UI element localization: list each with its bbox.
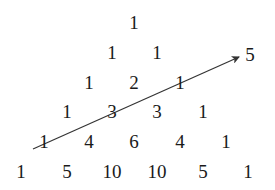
triangle-entry: 1 xyxy=(62,102,72,121)
triangle-entry: 1 xyxy=(221,132,231,151)
triangle-entry: 5 xyxy=(198,162,208,181)
triangle-entry: 1 xyxy=(152,43,162,62)
triangle-entry: 1 xyxy=(198,102,208,121)
triangle-entry: 1 xyxy=(84,73,94,92)
triangle-entry: 1 xyxy=(16,162,26,181)
arrow-sum-label: 5 xyxy=(245,45,255,64)
triangle-entry: 6 xyxy=(129,132,139,151)
triangle-entry: 1 xyxy=(129,13,139,32)
triangle-entry: 3 xyxy=(107,102,117,121)
triangle-entry: 1 xyxy=(39,132,49,151)
triangle-entry: 1 xyxy=(175,73,185,92)
triangle-entry: 3 xyxy=(152,102,162,121)
triangle-entry: 1 xyxy=(107,43,117,62)
triangle-entry: 1 xyxy=(243,162,253,181)
triangle-entry: 10 xyxy=(103,162,122,181)
triangle-entry: 4 xyxy=(175,132,185,151)
triangle-entry: 5 xyxy=(62,162,72,181)
triangle-entry: 2 xyxy=(129,73,139,92)
triangle-entry: 10 xyxy=(148,162,167,181)
triangle-entry: 4 xyxy=(84,132,94,151)
